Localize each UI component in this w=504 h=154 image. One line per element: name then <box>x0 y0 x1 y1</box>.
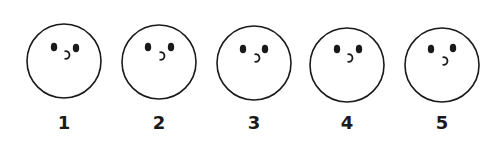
mouth <box>443 57 448 65</box>
right-eye <box>450 44 456 53</box>
face-item-3: 3 <box>209 0 299 154</box>
left-eye <box>240 45 246 54</box>
right-eye <box>356 45 362 54</box>
face-outline <box>310 28 384 102</box>
face-outline <box>405 28 479 102</box>
face-item-2: 2 <box>114 0 204 154</box>
face-number-label: 4 <box>302 113 392 133</box>
mouth <box>65 51 70 59</box>
left-eye <box>428 45 434 54</box>
face-outline <box>27 24 101 98</box>
right-eye <box>168 43 174 52</box>
left-eye <box>145 43 151 52</box>
right-eye <box>262 45 268 54</box>
face-number-label: 1 <box>19 113 109 133</box>
face-outline <box>122 25 196 99</box>
face-number-label: 3 <box>209 113 299 133</box>
mouth <box>255 54 260 62</box>
face-item-5: 5 <box>397 0 487 154</box>
face-number-label: 2 <box>114 113 204 133</box>
face-item-4: 4 <box>302 0 392 154</box>
right-eye <box>73 44 79 53</box>
face-number-label: 5 <box>397 113 487 133</box>
mouth <box>160 52 165 60</box>
face-item-1: 1 <box>19 0 109 154</box>
left-eye <box>334 45 340 54</box>
face-outline <box>217 26 291 100</box>
mouth <box>348 54 353 62</box>
left-eye <box>51 43 57 52</box>
